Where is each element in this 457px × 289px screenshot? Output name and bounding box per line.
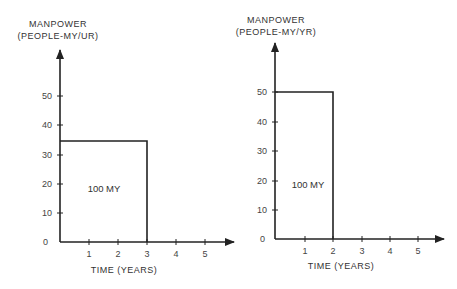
left-xtick-5: 5 (202, 249, 207, 259)
left-ylabel-line2: (PEOPLE-MY/UR) (17, 31, 98, 41)
right-ytick-50: 50 (257, 87, 267, 97)
right-xtick-5: 5 (415, 246, 420, 256)
left-ylabel-line1: MANPOWER (29, 19, 87, 29)
right-manpower-profile (275, 92, 333, 239)
right-area-label: 100 MY (292, 179, 325, 190)
left-ytick-40: 40 (42, 120, 52, 130)
left-ytick-10: 10 (42, 208, 52, 218)
right-ytick-30: 30 (257, 146, 267, 156)
left-chart: MANPOWER (PEOPLE-MY/UR) 0 10 20 30 40 50… (17, 19, 234, 275)
left-ytick-0: 0 (43, 237, 48, 247)
right-ytick-0: 0 (260, 234, 265, 244)
right-chart: MANPOWER (PEOPLE-MY/YR) 0 10 20 30 40 50… (236, 15, 444, 271)
left-ytick-20: 20 (42, 179, 52, 189)
left-xtick-3: 3 (144, 249, 149, 259)
right-xtick-4: 4 (387, 246, 392, 256)
right-ylabel-line2: (PEOPLE-MY/YR) (236, 27, 317, 37)
charts-canvas: MANPOWER (PEOPLE-MY/UR) 0 10 20 30 40 50… (0, 0, 457, 289)
left-xtick-1: 1 (86, 249, 91, 259)
left-xtick-4: 4 (173, 249, 178, 259)
right-ytick-40: 40 (257, 117, 267, 127)
right-ytick-20: 20 (257, 176, 267, 186)
left-xtick-2: 2 (115, 249, 120, 259)
right-ylabel-line1: MANPOWER (247, 15, 305, 25)
right-xlabel: TIME (YEARS) (308, 261, 375, 271)
left-xlabel: TIME (YEARS) (91, 265, 158, 275)
right-xtick-3: 3 (359, 246, 364, 256)
left-area-label: 100 MY (88, 183, 121, 194)
left-ytick-30: 30 (42, 150, 52, 160)
left-ytick-50: 50 (42, 91, 52, 101)
right-xtick-2: 2 (330, 246, 335, 256)
right-xtick-1: 1 (302, 246, 307, 256)
right-ytick-10: 10 (257, 205, 267, 215)
